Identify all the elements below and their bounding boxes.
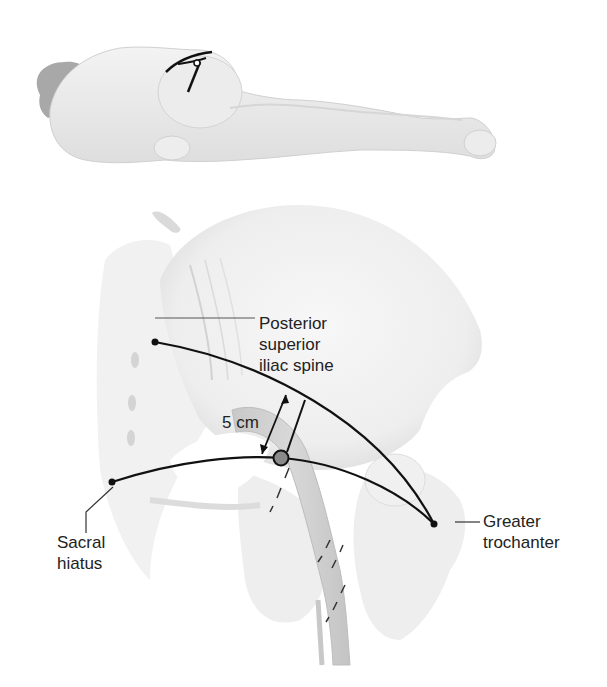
label-sacral-hiatus: Sacral hiatus (57, 532, 105, 574)
femoral-head (365, 454, 425, 506)
sacral-foramen (128, 395, 136, 411)
sacral-foramen (127, 430, 135, 446)
greater-trochanter-point (431, 521, 438, 528)
sacral-hiatus-point (109, 479, 116, 486)
label-line: Greater (483, 511, 560, 532)
label-line: Sacral (57, 532, 105, 553)
patient-foot (464, 130, 496, 156)
patient-hand (154, 136, 190, 160)
sacral-foramen (131, 352, 139, 368)
label-distance: 5 cm (222, 412, 259, 433)
psis-point (152, 339, 159, 346)
label-line: iliac spine (259, 355, 334, 376)
label-line: 5 cm (222, 412, 259, 433)
label-line: trochanter (483, 532, 560, 553)
label-line: hiatus (57, 553, 105, 574)
label-posterior-superior-iliac-spine: Posterior superior iliac spine (259, 313, 334, 376)
needle-insertion-point (274, 451, 289, 466)
patient-figure (37, 47, 496, 163)
nerve-branch (318, 600, 322, 665)
patient-marks-point (194, 60, 200, 66)
label-line: superior (259, 334, 334, 355)
label-line: Posterior (259, 313, 334, 334)
label-greater-trochanter: Greater trochanter (483, 511, 560, 553)
spinous-process (152, 211, 180, 232)
pelvis-illustration (97, 205, 482, 665)
